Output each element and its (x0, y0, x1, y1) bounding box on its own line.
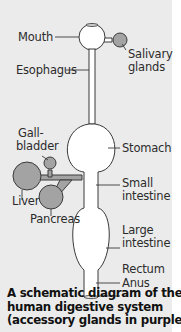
caption-line-2: human digestive system (7, 301, 177, 315)
diagram-caption: A schematic diagram of the human digesti… (7, 287, 177, 328)
caption-line-3: (accessory glands in purple) (7, 314, 177, 328)
label-gallbladder-line2: bladder (16, 140, 59, 153)
label-liver: Liver (12, 195, 39, 208)
mouth-shape (79, 24, 105, 50)
caption-line-1: A schematic diagram of the (7, 287, 177, 301)
pancreas-shape (39, 185, 63, 209)
label-large-intestine-line2: intestine (122, 237, 170, 250)
liver-shape (13, 162, 41, 190)
stomach-intestine-shape (67, 124, 115, 297)
label-mouth: Mouth (18, 31, 53, 44)
label-small-intestine-line2: intestine (122, 190, 170, 203)
label-stomach: Stomach (122, 142, 171, 155)
label-salivary-glands-line2: glands (128, 61, 165, 74)
esophagus-shape (89, 49, 95, 124)
label-pancreas: Pancreas (30, 213, 80, 226)
label-rectum: Rectum (122, 263, 165, 276)
label-esophagus: Esophagus (16, 64, 77, 77)
